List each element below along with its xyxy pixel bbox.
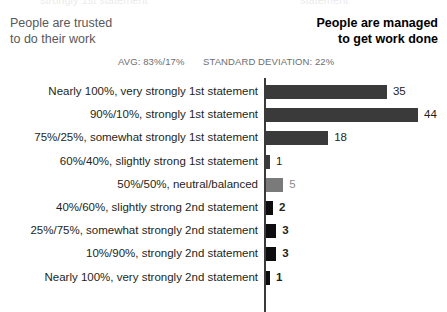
bar-value-label: 1 [276,154,282,169]
right-statement-title-line1: People are managed [238,15,438,31]
bar-row-label: 10%/90%, strongly 2nd statement [86,246,258,261]
bar [266,247,276,261]
right-statement-title-line2: to get work done [238,31,438,47]
bar-row-label: 75%/25%, somewhat strongly 1st statement [34,130,258,145]
average-stat: AVG: 83%/17% [118,56,185,67]
bar [266,108,418,122]
bar-value-label: 2 [279,200,285,215]
bar [266,85,387,99]
bar-value-label: 3 [282,223,288,238]
bar-row: 50%/50%, neutral/balanced5 [0,174,447,197]
bar-row: 10%/90%, strongly 2nd statement3 [0,243,447,266]
bar-row-label: 25%/75%, somewhat strongly 2nd statement [30,223,258,238]
standard-deviation-stat: STANDARD DEVIATION: 22% [203,56,334,67]
bar-row-label: Nearly 100%, very strongly 2nd statement [45,270,259,285]
left-statement-title-line1: People are trusted [10,15,190,31]
bar [266,201,273,215]
bar-row-label: 40%/60%, slightly strong 2nd statement [56,200,258,215]
bar-row: 90%/10%, strongly 1st statement44 [0,104,447,127]
bar-chart-plot-area: Nearly 100%, very strongly 1st statement… [0,78,447,312]
bar [266,271,270,285]
bar-row: 25%/75%, somewhat strongly 2nd statement… [0,220,447,243]
bar-row-label: Nearly 100%, very strongly 1st statement [48,84,258,99]
bar-value-label: 44 [424,107,437,122]
bar [266,178,283,192]
bar-value-label: 3 [282,246,288,261]
bar [266,155,270,169]
bar-value-label: 5 [289,177,295,192]
left-statement-title: People are trusted to do their work [10,15,190,47]
bar-row-label: 50%/50%, neutral/balanced [117,177,258,192]
bar-value-label: 18 [334,130,347,145]
bar-row: 40%/60%, slightly strong 2nd statement2 [0,197,447,220]
left-statement-title-line2: to do their work [10,31,190,47]
bar-row: 60%/40%, slightly strong 1st statement1 [0,151,447,174]
bar [266,224,276,238]
clipped-row-label: strongly 1st statement [40,0,148,6]
right-statement-title: People are managed to get work done [238,15,438,47]
bar-row: Nearly 100%, very strongly 2nd statement… [0,267,447,290]
bar-value-label: 35 [393,84,406,99]
clipped-row-label-right: statement [300,0,348,6]
bar-row-label: 60%/40%, slightly strong 1st statement [60,154,258,169]
clipped-top-row: strongly 1st statement statement [0,0,447,8]
bar-value-label: 1 [276,270,282,285]
bar [266,131,328,145]
bar-row: Nearly 100%, very strongly 1st statement… [0,81,447,104]
bar-row: 75%/25%, somewhat strongly 1st statement… [0,127,447,150]
statistics-row: AVG: 83%/17% STANDARD DEVIATION: 22% [0,56,447,70]
bar-row-label: 90%/10%, strongly 1st statement [90,107,258,122]
